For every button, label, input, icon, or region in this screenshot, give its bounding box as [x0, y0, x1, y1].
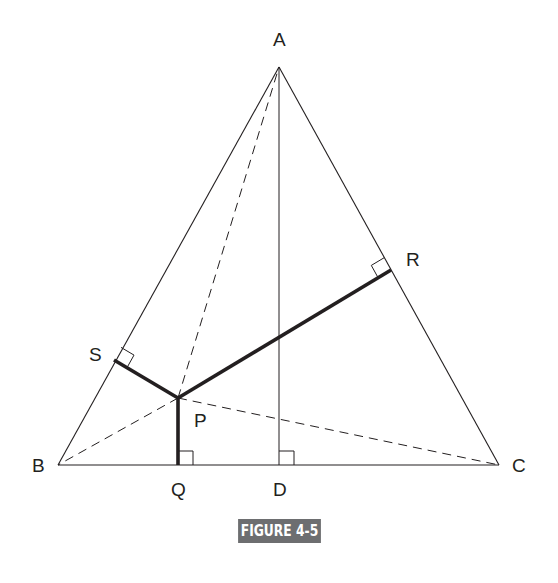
label-d: D — [273, 479, 287, 500]
label-b: B — [32, 455, 45, 476]
label-q: Q — [171, 479, 186, 500]
segment-ps — [114, 360, 178, 398]
right-angle-marks — [121, 258, 384, 465]
segment-pr — [178, 270, 391, 398]
label-r: R — [406, 249, 420, 270]
equilateral-triangle-figure: A B C D P Q R S — [0, 0, 558, 583]
label-c: C — [512, 455, 526, 476]
figure-caption: FIGURE 4-5 — [238, 519, 321, 543]
side-ca — [279, 67, 499, 465]
side-ab — [58, 67, 279, 465]
label-a: A — [273, 29, 286, 50]
perpendiculars — [114, 270, 391, 465]
label-p: P — [194, 410, 207, 431]
right-angle-mark-q — [178, 451, 193, 465]
right-angle-mark-d — [279, 451, 294, 465]
label-s: S — [89, 344, 102, 365]
dashed-pc — [178, 398, 499, 465]
